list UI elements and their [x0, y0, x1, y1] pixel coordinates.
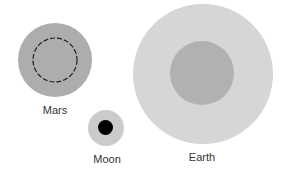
earth-group: Earth: [133, 4, 273, 163]
moon-label: Moon: [93, 153, 121, 165]
planet-size-diagram: Mars Moon Earth: [0, 0, 287, 176]
moon-inner-circle: [98, 120, 113, 135]
mars-label: Mars: [43, 104, 68, 116]
mars-outer-circle: [18, 23, 92, 97]
earth-label: Earth: [189, 151, 215, 163]
moon-group: Moon: [88, 110, 124, 165]
earth-inner-circle: [170, 41, 234, 105]
mars-group: Mars: [18, 23, 92, 116]
